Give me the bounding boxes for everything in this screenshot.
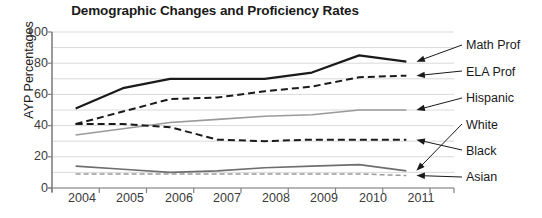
annotation-arrow-asian bbox=[416, 173, 462, 179]
series-line-white bbox=[76, 165, 407, 173]
series-line-ela-prof bbox=[76, 76, 407, 124]
annotation-arrow-hispanic bbox=[416, 98, 462, 111]
annotation-arrow-black bbox=[416, 138, 462, 150]
annotation-arrow-ela-prof bbox=[416, 71, 462, 78]
annotation-arrow-white bbox=[416, 124, 462, 171]
series-line-black bbox=[76, 124, 407, 141]
chart-container: Demographic Changes and Proficiency Rate… bbox=[0, 0, 542, 218]
annotation-arrows bbox=[416, 45, 462, 179]
data-series-layer bbox=[76, 55, 407, 175]
series-line-asian bbox=[76, 174, 407, 176]
series-line-hispanic bbox=[76, 110, 407, 135]
plot-area bbox=[0, 0, 542, 218]
